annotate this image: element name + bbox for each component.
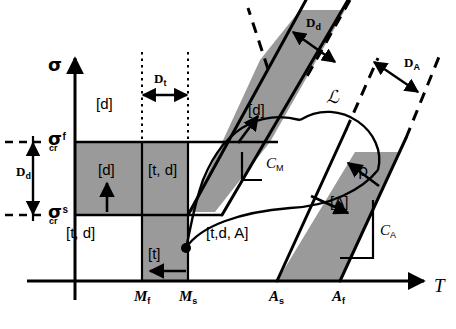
dimension-Dt-symbol: D	[154, 71, 163, 86]
dashed-martensite-left-extension	[248, 8, 268, 69]
tick-Ms-subscript: s	[192, 296, 197, 306]
slope-CM-label: CM	[266, 155, 284, 171]
slope-CA-label: CA	[380, 222, 396, 238]
rho-label: ρ	[358, 163, 368, 179]
region-label-d-martensite-band: [d]	[248, 102, 265, 117]
dimension-Dd-vertical-symbol: D	[16, 164, 25, 179]
loop-state-dot	[181, 243, 191, 253]
region-td-box	[142, 142, 188, 215]
dimension-Dt-label: Dt	[154, 70, 166, 86]
region-label-tdA-center: [t,d, A]	[206, 225, 249, 240]
tick-Ms: Ms	[179, 288, 197, 304]
tick-Af-subscript: f	[342, 296, 345, 306]
slope-CA-symbol: C	[380, 222, 390, 238]
region-austenite-band-shade	[277, 152, 398, 281]
tick-Mf-symbol: M	[134, 288, 147, 304]
dimension-DA-diagonal-symbol: D	[404, 55, 413, 70]
sigma-cr-s-label: σcrs	[48, 203, 76, 221]
sigma-cr-s-subscript: cr	[49, 216, 58, 226]
dashed-austenite-left-extension	[346, 58, 378, 130]
sigma-cr-f-superscript: f	[63, 131, 66, 142]
sigma-stress-axis-label: σ	[48, 56, 62, 74]
region-label-A-austenite-band: [A]	[330, 194, 348, 209]
tick-As-subscript: s	[279, 296, 284, 306]
sigma-cr-f-subscript: cr	[49, 143, 58, 153]
dimension-Dd-vertical-subscript: d	[25, 171, 31, 181]
Dt-dotted-guides	[142, 52, 188, 142]
slope-CA-subscript: A	[390, 230, 396, 240]
dimension-Dd-diagonal-label: Dd	[306, 14, 321, 30]
phase-diagram-figure: σ T σcrf σcrs Mf Ms As Af Dt Dd Dd DA [d…	[0, 0, 456, 329]
slope-CM-subscript: M	[276, 163, 284, 173]
region-label-td-lower-left: [t, d]	[66, 225, 95, 240]
dimension-DA-diagonal-subscript: A	[413, 62, 420, 72]
loop-curve-label: ℒ	[326, 88, 339, 106]
tick-As-symbol: A	[269, 288, 279, 304]
tick-As: As	[269, 288, 284, 304]
dimension-Dd-vertical-label: Dd	[16, 163, 31, 179]
tick-Ms-symbol: M	[179, 288, 192, 304]
region-label-t-lower: [t]	[148, 246, 161, 261]
region-label-d-box-left: [d]	[98, 162, 115, 177]
region-d-box	[75, 142, 142, 215]
dimension-DA-diagonal-label: DA	[404, 54, 420, 70]
tick-Af: Af	[332, 288, 345, 304]
sigma-cr-f-label: σcrf	[48, 130, 74, 148]
tick-Mf-subscript: f	[147, 296, 150, 306]
dimension-Dd-diagonal-subscript: d	[315, 22, 321, 32]
phase-diagram-canvas	[0, 0, 456, 329]
dimension-Dd-diagonal-symbol: D	[306, 15, 315, 30]
tick-Af-symbol: A	[332, 288, 342, 304]
region-label-td-box-right: [t, d]	[148, 162, 177, 177]
tick-Mf: Mf	[134, 288, 150, 304]
slope-CM-symbol: C	[266, 155, 276, 171]
dimension-Dt-subscript: t	[163, 78, 166, 88]
region-label-d-upper-left: [d]	[96, 96, 113, 111]
sigma-cr-s-superscript: s	[63, 204, 69, 215]
temperature-axis-label: T	[434, 276, 445, 295]
